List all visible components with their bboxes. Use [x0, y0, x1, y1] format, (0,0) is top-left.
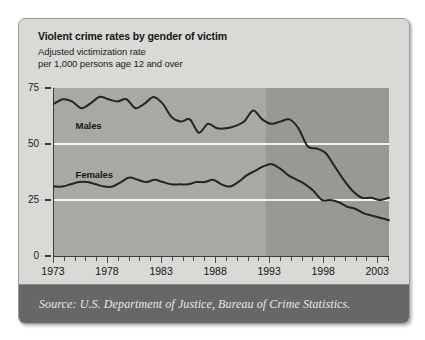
x-tick-label-1993: 1993 — [257, 265, 280, 277]
series-label-females: Females — [76, 169, 113, 180]
x-tick-label-1998: 1998 — [311, 265, 334, 277]
chart-footer: Source: U.S. Department of Justice, Bure… — [19, 284, 409, 323]
x-tick-mark-1976 — [85, 257, 86, 261]
x-tick-mark-1975 — [75, 257, 76, 261]
x-tick-mark-2002 — [366, 257, 367, 261]
x-tick-mark-1987 — [204, 257, 205, 261]
x-tick-mark-2001 — [356, 257, 357, 261]
x-tick-mark-1997 — [312, 257, 313, 261]
y-tick-mark-75 — [45, 87, 51, 89]
plot-area-wrapper: 0255075 Males Females 197319781983198819… — [19, 19, 409, 285]
x-tick-mark-1989 — [226, 257, 227, 261]
x-tick-mark-1973 — [53, 257, 54, 263]
x-tick-mark-1992 — [258, 257, 259, 261]
x-tick-mark-1982 — [150, 257, 151, 261]
x-tick-label-1983: 1983 — [149, 265, 172, 277]
x-tick-mark-1986 — [193, 257, 194, 261]
y-tick-mark-25 — [45, 199, 51, 201]
x-tick-label-1973: 1973 — [41, 265, 64, 277]
x-axis: 1973197819831988199319982003 — [53, 257, 388, 285]
source-note: Source: U.S. Department of Justice, Bure… — [39, 297, 350, 312]
x-tick-label-1978: 1978 — [95, 265, 118, 277]
x-tick-mark-1984 — [172, 257, 173, 261]
y-tick-label-50: 50 — [28, 139, 39, 149]
x-tick-mark-1981 — [139, 257, 140, 261]
x-tick-mark-1979 — [118, 257, 119, 261]
x-tick-mark-2003 — [377, 257, 378, 263]
x-tick-mark-1993 — [269, 257, 270, 263]
x-tick-mark-1985 — [183, 257, 184, 261]
y-tick-mark-50 — [45, 143, 51, 145]
x-tick-mark-1983 — [161, 257, 162, 263]
x-tick-mark-1980 — [129, 257, 130, 261]
x-tick-label-2003: 2003 — [366, 265, 389, 277]
x-tick-mark-1991 — [248, 257, 249, 261]
plot-area: Males Females — [53, 88, 389, 257]
x-tick-mark-1995 — [291, 257, 292, 261]
x-tick-mark-1977 — [96, 257, 97, 261]
x-tick-mark-1974 — [64, 257, 65, 261]
x-tick-label-1988: 1988 — [203, 265, 226, 277]
y-tick-label-25: 25 — [28, 195, 39, 205]
x-tick-mark-2000 — [345, 257, 346, 261]
x-tick-mark-2004 — [388, 257, 389, 261]
x-tick-mark-1998 — [323, 257, 324, 263]
series-label-males: Males — [76, 120, 102, 131]
x-tick-mark-1999 — [334, 257, 335, 261]
x-tick-mark-1978 — [107, 257, 108, 263]
y-tick-label-75: 75 — [28, 83, 39, 93]
y-tick-label-0: 0 — [33, 251, 39, 261]
x-tick-mark-1990 — [237, 257, 238, 261]
x-tick-mark-1996 — [302, 257, 303, 261]
y-tick-mark-0 — [45, 255, 51, 257]
chart-card: Violent crime rates by gender of victim … — [18, 18, 410, 324]
x-tick-mark-1994 — [280, 257, 281, 261]
x-tick-mark-1988 — [215, 257, 216, 263]
y-axis: 0255075 — [19, 88, 49, 256]
